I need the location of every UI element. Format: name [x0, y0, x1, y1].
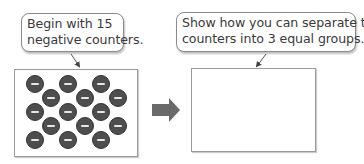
connectors	[0, 0, 364, 164]
right-arrow-icon	[152, 98, 180, 122]
left-pointer-arrow-icon	[71, 54, 79, 66]
right-pointer-arrow-icon	[257, 54, 266, 66]
